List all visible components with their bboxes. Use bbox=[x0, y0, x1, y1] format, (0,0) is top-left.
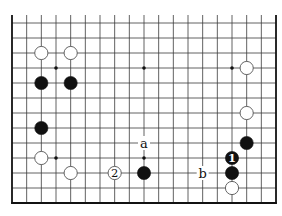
white-stone bbox=[240, 106, 253, 119]
white-stone bbox=[225, 181, 238, 194]
white-stone bbox=[64, 46, 77, 59]
move-number: 2 bbox=[111, 166, 118, 180]
white-stone bbox=[64, 166, 77, 179]
marker-label: b bbox=[199, 166, 207, 181]
go-board-canvas: ab 12 bbox=[0, 0, 282, 216]
marker-label: a bbox=[140, 136, 148, 151]
star-point bbox=[142, 66, 146, 70]
move-number: 1 bbox=[228, 151, 236, 165]
black-stone bbox=[225, 166, 238, 179]
star-point bbox=[54, 156, 58, 160]
black-stone bbox=[35, 76, 48, 89]
go-board-diagram: ab 12 bbox=[0, 0, 282, 216]
black-stone bbox=[240, 136, 253, 149]
white-stone bbox=[35, 151, 48, 164]
marker-a: a bbox=[138, 136, 150, 151]
black-stone bbox=[35, 121, 48, 134]
white-stone-move-2: 2 bbox=[108, 166, 121, 180]
white-stone bbox=[240, 61, 253, 74]
black-stone-move-1: 1 bbox=[225, 151, 238, 165]
star-point bbox=[230, 66, 234, 70]
black-stone bbox=[137, 166, 150, 179]
star-point bbox=[142, 156, 146, 160]
black-stone bbox=[64, 76, 77, 89]
star-point bbox=[54, 66, 58, 70]
white-stone bbox=[35, 46, 48, 59]
marker-b: b bbox=[197, 166, 209, 181]
